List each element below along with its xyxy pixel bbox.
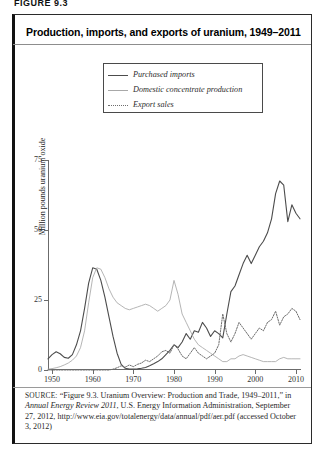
legend-item-domestic-production: Domestic concentrate production <box>108 83 242 96</box>
x-axis-tick-label: 2000 <box>240 375 270 384</box>
source-divider <box>13 387 311 388</box>
plot-area <box>48 160 300 370</box>
x-axis-tick <box>215 370 216 374</box>
series-path-purchased-imports <box>48 181 300 369</box>
x-axis-tick-label: 1980 <box>159 375 189 384</box>
x-axis-tick-label: 1950 <box>37 375 67 384</box>
legend-label: Purchased imports <box>133 70 195 79</box>
source-prefix: SOURCE: <box>25 391 58 400</box>
x-axis-tick <box>296 370 297 374</box>
legend-item-purchased-imports: Purchased imports <box>108 68 195 81</box>
y-axis-title: Million pounds uranium oxide <box>38 102 47 272</box>
y-axis-tick-label: 25 <box>20 295 42 304</box>
y-axis-tick-label: 0 <box>20 365 42 374</box>
line-swatch-icon <box>108 71 128 79</box>
y-axis-tick-label: 75 <box>20 155 42 164</box>
legend-label: Domestic concentrate production <box>133 85 242 94</box>
source-note: SOURCE: “Figure 9.3. Uranium Overview: P… <box>25 391 302 433</box>
x-axis-tick-label: 1990 <box>200 375 230 384</box>
line-swatch-icon <box>108 86 128 94</box>
x-axis-tick-label: 2010 <box>281 375 311 384</box>
chart-legend: Purchased imports Domestic concentrate p… <box>103 63 263 113</box>
x-axis-tick <box>255 370 256 374</box>
figure-container: FIGURE 9.3 Production, imports, and expo… <box>0 0 323 456</box>
chart-curves <box>48 160 300 370</box>
series-path-domestic-production <box>48 268 300 369</box>
x-axis-tick <box>133 370 134 374</box>
title-divider <box>13 44 311 45</box>
y-axis-tick-label: 50 <box>20 225 42 234</box>
dotted-line-swatch-icon <box>108 101 128 109</box>
source-text-1: “Figure 9.3. Uranium Overview: Productio… <box>58 391 292 400</box>
x-axis-tick-label: 1960 <box>78 375 108 384</box>
figure-number: FIGURE 9.3 <box>14 0 68 7</box>
source-publication: Annual Energy Review 2011 <box>25 401 116 410</box>
figure-title: Production, imports, and exports of uran… <box>26 26 306 38</box>
legend-label: Export sales <box>133 100 174 109</box>
x-axis-tick <box>52 370 53 374</box>
y-axis-tick <box>44 370 48 371</box>
x-axis-tick <box>174 370 175 374</box>
legend-item-export-sales: Export sales <box>108 98 174 111</box>
x-axis-tick <box>93 370 94 374</box>
x-axis-tick-label: 1970 <box>118 375 148 384</box>
